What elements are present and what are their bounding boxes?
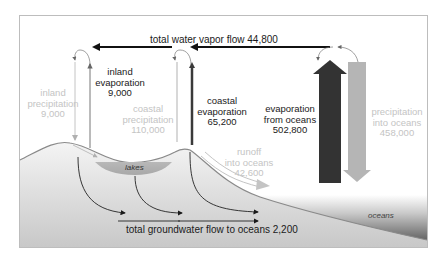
precipitation-into-oceans-label: precipitation into oceans 458,000: [366, 107, 428, 139]
groundwater-label: total groundwater flow to oceans 2,200: [126, 224, 298, 235]
ocean-precip-arrow-body: [348, 62, 366, 170]
coastal-precipitation-label: coastal precipitation 110,000: [118, 104, 178, 136]
label-line: 458,000: [366, 128, 428, 139]
inland-evaporation-label: inland evaporation 9,000: [90, 67, 150, 99]
lakes-label: lakes: [125, 163, 144, 172]
label-line: 65,200: [194, 117, 250, 128]
label-line: precipitation: [366, 107, 428, 118]
label-line: evaporation: [262, 104, 318, 115]
label-line: 110,000: [118, 125, 178, 136]
evaporation-from-oceans-label: evaporation from oceans 502,800: [262, 104, 318, 136]
coastal-evaporation-label: coastal evaporation 65,200: [194, 96, 250, 128]
ocean-evap-arrow-body: [319, 74, 341, 183]
inland-precipitation-label: inland precipitation 9,000: [22, 88, 84, 120]
label-line: coastal: [118, 104, 178, 115]
label-line: 9,000: [90, 88, 150, 99]
water-cycle-diagram: total water vapor flow 44,800 inland pre…: [0, 0, 441, 257]
label-line: 42,600: [224, 168, 274, 179]
label-line: inland: [90, 67, 150, 78]
label-line: coastal: [194, 96, 250, 107]
label-line: 9,000: [22, 109, 84, 120]
vapor-flow-label: total water vapor flow 44,800: [150, 34, 278, 45]
oceans-label: oceans: [368, 211, 394, 220]
label-line: runoff: [224, 147, 274, 158]
runoff-label: runoff into oceans 42,600: [224, 147, 274, 179]
label-line: inland: [22, 88, 84, 99]
label-line: 502,800: [262, 125, 318, 136]
